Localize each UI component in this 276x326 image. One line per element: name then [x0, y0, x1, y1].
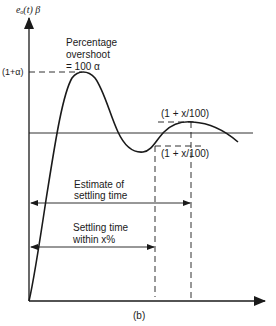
- settling-label-line2: within x%: [72, 234, 115, 245]
- overshoot-label-line1: Percentage: [66, 37, 118, 48]
- peak-label: (1+α): [2, 67, 23, 77]
- figure-caption: (b): [133, 310, 145, 321]
- y-axis-label: eₒ(t) β: [16, 4, 40, 16]
- overshoot-label-line3: = 100 α: [66, 61, 100, 72]
- estimate-label-line1: Estimate of: [74, 179, 124, 190]
- settling-label-line1: Settling time: [73, 222, 128, 233]
- overshoot-label-line2: overshoot: [66, 49, 110, 60]
- response-curve: [29, 72, 238, 301]
- upper-band-label: (1 + x/100): [161, 108, 209, 119]
- lower-band-label: (1 + x/100): [161, 148, 209, 159]
- estimate-label-line2: settling time: [74, 190, 128, 201]
- settling-time-diagram: eₒ(t) β Percentage overshoot = 100 α (1+…: [0, 0, 276, 326]
